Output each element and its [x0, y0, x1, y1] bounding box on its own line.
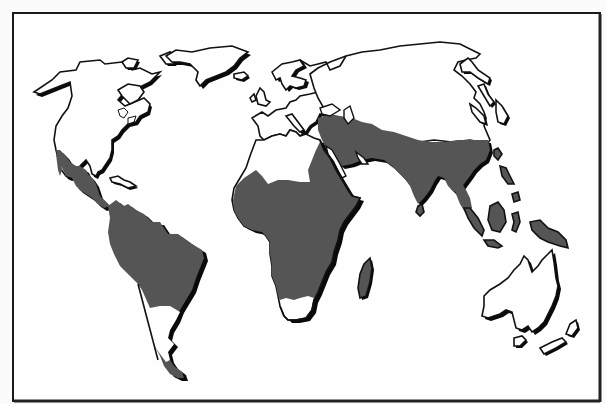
world-map — [0, 0, 606, 404]
world-map-svg — [0, 0, 606, 404]
